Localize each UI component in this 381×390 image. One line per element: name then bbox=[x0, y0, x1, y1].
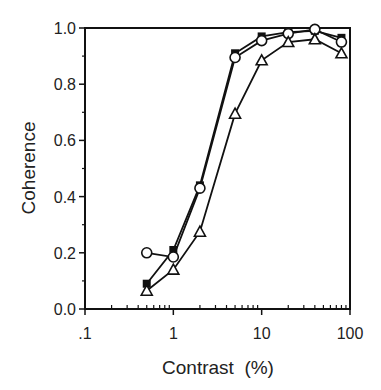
open-circle-line bbox=[147, 29, 342, 257]
filled-square-line bbox=[147, 31, 342, 284]
y-tick-label: 0.8 bbox=[54, 76, 76, 93]
open-triangle-marker bbox=[194, 226, 205, 236]
x-tick-label: .1 bbox=[78, 325, 91, 342]
y-tick-label: 0.2 bbox=[54, 245, 76, 262]
y-tick-label: 1.0 bbox=[54, 20, 76, 37]
y-axis-label: Coherence bbox=[18, 122, 39, 215]
x-tick-label: 1 bbox=[169, 325, 178, 342]
plot-frame bbox=[85, 28, 350, 309]
open-triangle-marker bbox=[336, 48, 347, 58]
x-axis: .1110100 bbox=[78, 305, 363, 342]
open-circle-marker bbox=[336, 37, 346, 47]
open-circle-marker bbox=[142, 248, 152, 258]
y-axis: 0.00.20.40.60.81.0 bbox=[54, 20, 85, 318]
open-circle-marker bbox=[168, 252, 178, 262]
series-markers bbox=[141, 24, 347, 295]
y-tick-label: 0.4 bbox=[54, 189, 76, 206]
open-triangle-marker bbox=[309, 34, 320, 44]
plot-border bbox=[85, 28, 350, 309]
open-circle-marker bbox=[195, 183, 205, 193]
y-tick-label: 0.6 bbox=[54, 132, 76, 149]
open-triangle-marker bbox=[230, 108, 241, 118]
x-tick-label: 100 bbox=[337, 325, 364, 342]
open-triangle-marker bbox=[256, 55, 267, 65]
coherence-vs-contrast-chart: 0.00.20.40.60.81.0 .1110100 Coherence Co… bbox=[0, 0, 381, 390]
x-axis-label: Contrast (%) bbox=[162, 357, 274, 378]
open-circle-marker bbox=[230, 53, 240, 63]
open-circle-marker bbox=[257, 36, 267, 46]
x-tick-label: 10 bbox=[253, 325, 271, 342]
y-tick-label: 0.0 bbox=[54, 301, 76, 318]
